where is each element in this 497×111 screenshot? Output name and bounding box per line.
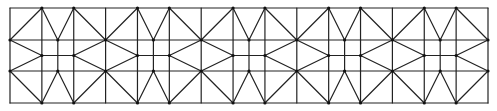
vertex-node [168,101,171,104]
vertex-node [231,54,234,57]
diagonal-line [361,40,393,56]
vertex-node [40,54,43,57]
diagonal-line [201,71,233,103]
vertex-node [263,54,266,57]
vertex-node [439,38,442,41]
diagonal-line [106,56,138,72]
vertex-node [168,6,171,9]
vertex-node [56,69,59,72]
diagonal-line [265,56,297,72]
vertex-node [486,38,489,41]
diagonal-line [392,40,424,56]
diagonal-line [233,8,249,40]
tessellation-diagram [0,0,497,111]
diagonal-line [137,8,153,40]
diagonal-line [361,56,393,72]
diagonal-line [74,71,106,103]
diagonal-line [10,8,42,40]
vertex-node [263,101,266,104]
diagonal-line [456,71,488,103]
vertex-node [295,38,298,41]
diagonal-line [169,40,201,56]
diagonal-line [440,8,456,40]
vertex-node [391,69,394,72]
diagonal-line [169,56,201,72]
diagonal-line [456,56,488,72]
diagonal-line [361,8,393,40]
vertex-node [40,6,43,9]
vertex-node [247,69,250,72]
diagonal-line [10,40,42,56]
diagonal-line [153,8,169,40]
vertex-node [455,54,458,57]
diagonal-line [424,71,440,103]
diagonal-line [74,8,106,40]
diagonal-line [201,8,233,40]
diagonal-line [424,8,440,40]
diagonal-line [297,40,329,56]
vertex-node [439,69,442,72]
vertex-node [152,69,155,72]
diagonal-line [169,71,201,103]
vertex-node [327,101,330,104]
vertex-node [486,69,489,72]
vertex-node [391,38,394,41]
vertex-node [295,69,298,72]
vertex-node [168,54,171,57]
diagonal-line [345,8,361,40]
diagonal-line [10,56,42,72]
vertex-node [136,6,139,9]
diagonal-line [58,8,74,40]
vertex-node [136,54,139,57]
diagonal-line [10,71,42,103]
vertex-node [359,54,362,57]
diagonal-line [58,71,74,103]
vertex-node [343,38,346,41]
diagonal-line [392,8,424,40]
vertex-node [40,101,43,104]
vertex-node [455,6,458,9]
vertex-node [231,101,234,104]
vertex-node [56,38,59,41]
vertex-node [423,101,426,104]
diagonal-line [74,56,106,72]
diagonal-line [265,40,297,56]
vertex-node [327,6,330,9]
vertex-node [359,101,362,104]
vertex-node [200,38,203,41]
diagonal-line [42,8,58,40]
diagonal-line [329,8,345,40]
vertex-node [136,101,139,104]
diagonal-line [392,71,424,103]
diagonal-line [297,8,329,40]
vertex-node [72,54,75,57]
diagonal-line [42,71,58,103]
diagonal-line [297,71,329,103]
vertex-node [343,69,346,72]
diagonal-line [106,8,138,40]
diagonal-line [392,56,424,72]
diagonal-line [153,71,169,103]
diagonal-line [456,40,488,56]
diagonal-line [329,71,345,103]
vertex-node [200,69,203,72]
diagonal-line [440,71,456,103]
vertex-node [72,101,75,104]
vertex-node [8,38,11,41]
vertex-node [231,6,234,9]
diagonal-line [249,71,265,103]
diagonal-line [265,71,297,103]
diagonal-line [297,56,329,72]
vertex-node [104,69,107,72]
diagonal-line [169,8,201,40]
vertex-node [104,38,107,41]
vertex-node [423,6,426,9]
vertex-node [359,6,362,9]
vertex-node [263,6,266,9]
diagonal-line [361,71,393,103]
diagonal-line [233,71,249,103]
vertex-node [423,54,426,57]
diagonal-line [456,8,488,40]
diagonal-line [201,56,233,72]
diagonal-line [345,71,361,103]
